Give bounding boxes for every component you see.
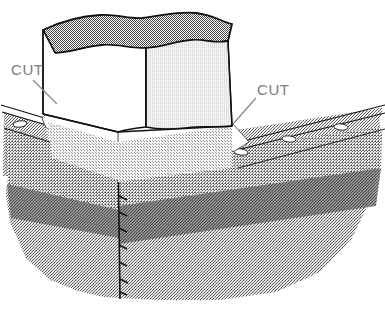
label-cut-right: CUT [257,82,290,97]
stone-block [43,13,232,132]
stone-block-right-face [146,40,232,129]
leader-line-cut-right [233,98,256,124]
figure-canvas: CUT CUT [0,0,385,311]
label-cut-left: CUT [11,62,44,77]
cutaway-illustration [0,0,385,311]
